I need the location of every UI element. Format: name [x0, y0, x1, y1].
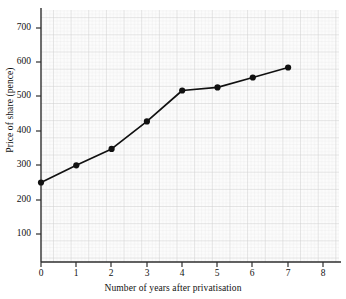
y-tick-200: 200: [5, 194, 31, 204]
x-axis-title: Number of years after privatisation: [0, 283, 346, 293]
y-tick-700: 700: [5, 22, 31, 32]
x-tick-4: 4: [172, 268, 192, 278]
x-tick-8: 8: [313, 268, 333, 278]
x-tick-0: 0: [31, 268, 51, 278]
x-tick-3: 3: [137, 268, 157, 278]
x-tick-1: 1: [66, 268, 86, 278]
data-point-5: [214, 84, 220, 90]
data-point-2: [109, 146, 115, 152]
y-tick-100: 100: [5, 228, 31, 238]
grid-overlay: [41, 10, 339, 262]
y-axis-title: Price of share (pence): [5, 45, 15, 175]
x-axis: [41, 262, 341, 267]
x-tick-5: 5: [207, 268, 227, 278]
data-point-6: [250, 74, 256, 80]
x-tick-2: 2: [101, 268, 121, 278]
x-tick-6: 6: [242, 268, 262, 278]
x-tick-7: 7: [278, 268, 298, 278]
line-chart: 700 600 500 400 300 200 100 0 1 2 3 4 5 …: [0, 0, 346, 299]
data-point-7: [285, 64, 291, 70]
plot-area: [0, 0, 346, 299]
data-point-0: [38, 179, 44, 185]
data-point-3: [144, 118, 150, 124]
y-axis: [36, 8, 41, 262]
data-point-4: [179, 87, 185, 93]
data-point-1: [73, 162, 79, 168]
